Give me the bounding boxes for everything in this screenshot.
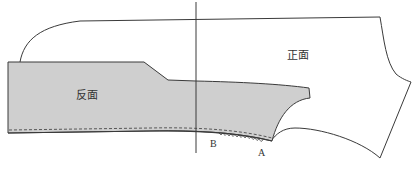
garment-pattern-diagram: 反面 正面 B A	[0, 0, 417, 169]
point-b-label: B	[210, 138, 217, 149]
point-a-label: A	[258, 147, 266, 158]
front-side-label: 正面	[287, 49, 309, 62]
reverse-side-label: 反面	[76, 89, 98, 102]
reverse-piece-shape	[8, 62, 310, 141]
